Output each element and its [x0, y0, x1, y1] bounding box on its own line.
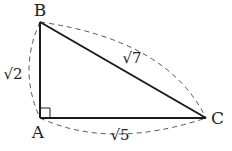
vertex-label-c: C [211, 108, 224, 128]
side-label-ab: √2 [3, 65, 22, 83]
side-label-ac: √5 [110, 126, 129, 144]
vertex-label-b: B [34, 0, 47, 20]
right-angle-marker [40, 108, 50, 118]
side-bc [40, 22, 206, 118]
arc-ab [29, 22, 40, 118]
triangle-diagram: B A C √2 √7 √5 [0, 0, 232, 151]
vertex-label-a: A [31, 122, 45, 142]
side-label-bc: √7 [122, 49, 141, 67]
